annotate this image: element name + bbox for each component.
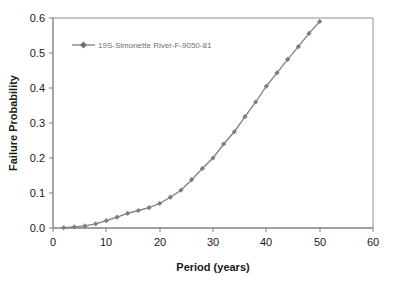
x-tick-label: 20 <box>154 236 166 248</box>
y-tick-label: 0.4 <box>30 82 45 94</box>
y-tick-label: 0.1 <box>30 187 45 199</box>
legend-entry-label: 19S-Simonette River-F-9050-81 <box>98 41 212 50</box>
y-tick-label: 0.3 <box>30 117 45 129</box>
y-tick-label: 0.0 <box>30 222 45 234</box>
x-tick-label: 10 <box>100 236 112 248</box>
x-tick-label: 50 <box>314 236 326 248</box>
x-tick-label: 0 <box>50 236 56 248</box>
y-axis-title: Failure Probability <box>7 74 19 171</box>
y-tick-label: 0.5 <box>30 47 45 59</box>
failure-probability-line-chart: 0.0 0.1 0.2 0.3 0.4 0.5 0.6 0 10 20 30 4… <box>0 0 394 284</box>
y-tick-label: 0.6 <box>30 12 45 24</box>
x-tick-label: 60 <box>367 236 379 248</box>
x-tick-label: 30 <box>207 236 219 248</box>
y-tick-label: 0.2 <box>30 152 45 164</box>
x-tick-label: 40 <box>260 236 272 248</box>
x-axis-title: Period (years) <box>176 261 250 273</box>
chart-figure: 0.0 0.1 0.2 0.3 0.4 0.5 0.6 0 10 20 30 4… <box>0 0 394 284</box>
